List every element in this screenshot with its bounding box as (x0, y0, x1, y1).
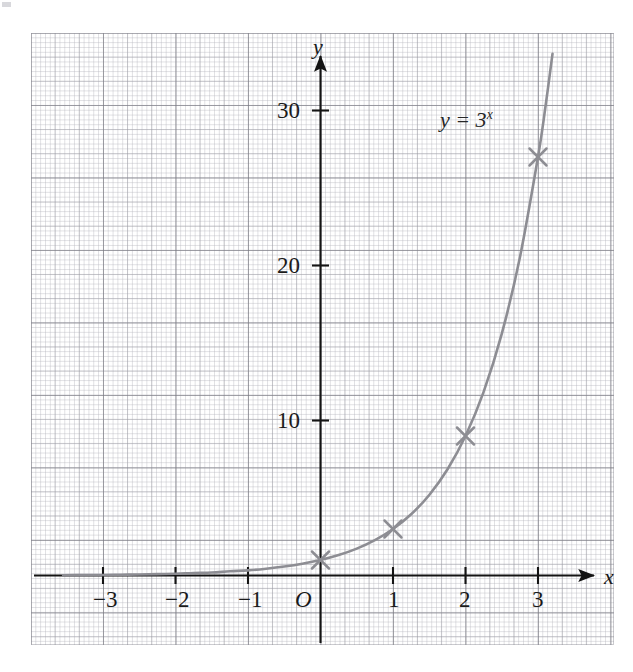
y-axis-label: y (313, 36, 323, 58)
x-tick-label--2: −2 (165, 588, 189, 611)
x-tick-label--3: −3 (93, 588, 117, 611)
x-tick-label--1: −1 (238, 588, 262, 611)
y-tick-label-30: 30 (277, 99, 300, 122)
y-tick-label-10: 10 (277, 409, 300, 432)
origin-label: O (295, 588, 312, 611)
y-tick-label-20: 20 (277, 254, 300, 277)
curve-equation-text: y = 3 (440, 107, 487, 132)
graph-paper-grid (31, 33, 614, 645)
x-tick-label-1: 1 (388, 588, 400, 611)
curve-equation-label: y = 3x (440, 108, 493, 131)
x-tick-label-2: 2 (459, 588, 471, 611)
curve-equation-exponent: x (487, 107, 493, 122)
scan-artifact-speck (2, 2, 11, 7)
x-tick-label-3: 3 (532, 588, 544, 611)
x-axis-label: x (604, 566, 614, 588)
graph-figure: −3 −2 −1 1 2 3 10 20 30 O x y y = 3x (0, 0, 633, 672)
